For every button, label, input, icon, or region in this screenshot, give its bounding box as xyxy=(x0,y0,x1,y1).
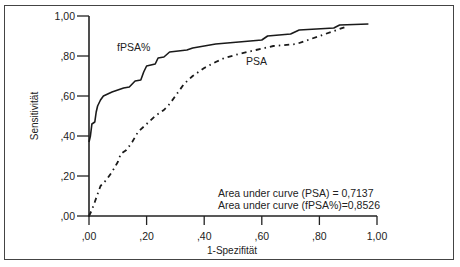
y-tick-label: ,00 xyxy=(60,210,75,222)
x-tick-label: ,00 xyxy=(82,230,97,242)
auc-annotation-psa: Area under curve (PSA) = 0,7137 xyxy=(218,187,374,199)
x-tick-label: ,40 xyxy=(197,230,212,242)
x-tick-label: ,60 xyxy=(254,230,269,242)
x-tick-label: ,80 xyxy=(312,230,327,242)
y-tick-label: ,80 xyxy=(60,50,75,62)
x-tick-label: ,20 xyxy=(139,230,154,242)
x-tick-label: 1,00 xyxy=(367,230,388,242)
series-label-psa: PSA xyxy=(246,55,267,67)
y-tick-label: ,60 xyxy=(60,90,75,102)
auc-annotation-fpsa: Area under curve (fPSA%)=0,8526 xyxy=(218,199,380,211)
roc-chart: ,00,20,40,60,801,00,00,20,40,60,801,00 S… xyxy=(0,0,460,267)
x-axis-title: 1-Spezifität xyxy=(207,245,257,256)
y-tick-label: ,40 xyxy=(60,130,75,142)
y-tick-label: ,20 xyxy=(60,170,75,182)
y-axis-title: Sensitivität xyxy=(29,92,40,141)
series-label-fpsa: fPSA% xyxy=(117,41,150,53)
y-tick-label: 1,00 xyxy=(55,10,76,22)
